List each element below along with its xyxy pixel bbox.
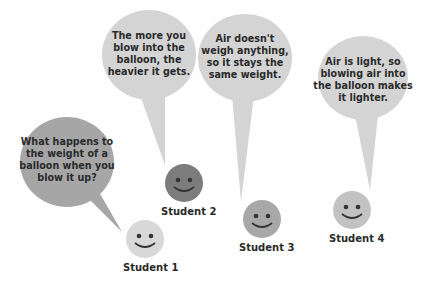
student-3-face-icon — [243, 200, 281, 238]
student-2-label: Student 2 — [161, 206, 216, 217]
speech-line: same weight. — [195, 69, 295, 81]
speech-line: What happens to — [17, 136, 117, 148]
speech-line: The more you — [99, 30, 199, 42]
speech-line: blowing air into — [313, 68, 413, 80]
speech-line: Air doesn't — [195, 33, 295, 45]
student-1-label: Student 1 — [123, 262, 178, 273]
speech-text-student-2: The more you blow into the balloon, the … — [99, 30, 199, 78]
speech-line: Air is light, so — [313, 56, 413, 68]
speech-text-student-1: What happens to the weight of a balloon … — [17, 136, 117, 184]
speech-line: it lighter. — [313, 92, 413, 104]
speech-line: heavier it gets. — [99, 66, 199, 78]
student-4-label: Student 4 — [329, 233, 384, 244]
student-2-face-icon — [165, 164, 203, 202]
speech-line: the balloon makes — [313, 80, 413, 92]
student-3-label: Student 3 — [239, 242, 294, 253]
speech-line: so it stays the — [195, 57, 295, 69]
speech-line: balloon, the — [99, 54, 199, 66]
speech-text-student-4: Air is light, so blowing air into the ba… — [313, 56, 413, 104]
student-1-face-icon — [126, 220, 164, 258]
speech-line: blow into the — [99, 42, 199, 54]
speech-line: blow it up? — [17, 172, 117, 184]
speech-bubble-diagram: What happens to the weight of a balloon … — [0, 0, 428, 284]
speech-line: the weight of a — [17, 148, 117, 160]
speech-line: weigh anything, — [195, 45, 295, 57]
speech-text-student-3: Air doesn't weigh anything, so it stays … — [195, 33, 295, 81]
student-4-face-icon — [333, 191, 371, 229]
speech-line: balloon when you — [17, 160, 117, 172]
